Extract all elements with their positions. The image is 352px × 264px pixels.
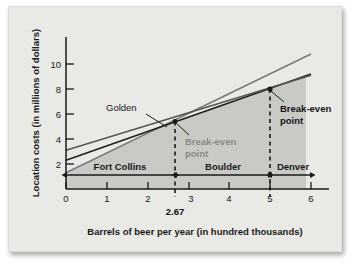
- y-axis-ticks: 10 8 6 4 2: [50, 59, 74, 170]
- x-tick-label-3: 3: [188, 193, 193, 204]
- breakeven-2-label-line1: Break-even: [280, 103, 331, 114]
- x-axis-title: Barrels of beer per year (in hundred tho…: [87, 226, 302, 237]
- x-tick-label-1: 1: [104, 193, 109, 204]
- breakeven-2-label-line2: point: [280, 115, 304, 126]
- region-label-fort-collins: Fort Collins: [94, 161, 147, 172]
- y-axis-title: Location costs (in millions of dollars): [30, 29, 41, 197]
- region-label-boulder: Boulder: [205, 161, 241, 172]
- screenshot-root: 10 8 6 4 2 0 1 2: [0, 0, 352, 264]
- breakeven-marker-2: [267, 86, 272, 91]
- x-tick-label-4: 4: [226, 193, 231, 204]
- golden-annotation: Golden: [106, 102, 167, 127]
- golden-label: Golden: [106, 102, 137, 113]
- figure-panel: 10 8 6 4 2 0 1 2: [9, 7, 341, 251]
- breakeven-location-cost-chart: 10 8 6 4 2 0 1 2: [9, 7, 343, 253]
- y-tick-label-6: 6: [56, 109, 61, 120]
- region-label-denver: Denver: [277, 161, 310, 172]
- y-tick-label-8: 8: [56, 84, 61, 95]
- y-tick-label-2: 2: [56, 159, 61, 170]
- x-tick-label-6: 6: [308, 193, 313, 204]
- breakeven-1-label-line2: point: [185, 148, 209, 159]
- x-tick-label-breakeven: 2.67: [166, 206, 185, 217]
- breakeven-1-label-line1: Break-even: [185, 136, 236, 147]
- x-tick-label-2: 2: [145, 193, 150, 204]
- y-tick-label-10: 10: [50, 59, 61, 70]
- x-tick-label-0: 0: [63, 193, 68, 204]
- y-tick-label-4: 4: [56, 134, 61, 145]
- figure-frame: 10 8 6 4 2 0 1 2: [8, 6, 342, 252]
